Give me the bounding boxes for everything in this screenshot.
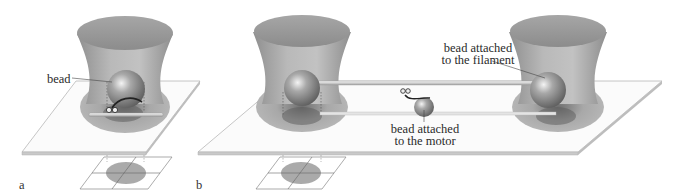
label-bead-filament: bead attached to the filament <box>423 42 533 66</box>
label-bead-motor: bead attached to the motor <box>370 123 480 147</box>
label-bead-filament-line2: to the filament <box>423 54 533 66</box>
filament-a <box>89 113 163 117</box>
panel-letter-b: b <box>196 178 202 193</box>
label-bead-motor-line2: to the motor <box>370 135 480 147</box>
bead-a <box>107 70 145 108</box>
bead-b-left <box>284 70 320 106</box>
panel-letter-a: a <box>19 178 25 193</box>
filament-b <box>318 81 548 85</box>
filament-shadow-b <box>320 112 556 115</box>
camera-image-a <box>80 155 172 189</box>
camera-image-b <box>256 155 346 189</box>
optical-trap-diagram <box>0 0 681 195</box>
label-bead-a: bead <box>47 73 71 85</box>
bead-b-right <box>530 72 566 108</box>
panel-a <box>22 16 200 189</box>
